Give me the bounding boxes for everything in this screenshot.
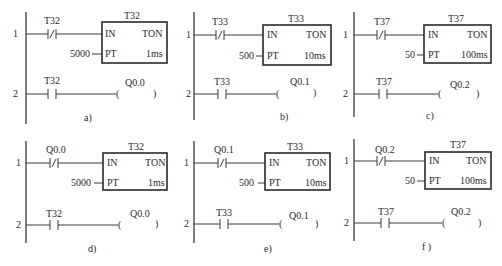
ladder-graphics bbox=[168, 2, 336, 135]
timer-in-pin: IN bbox=[269, 158, 280, 168]
coil-open-paren: ( bbox=[116, 89, 119, 99]
timer-in-pin: IN bbox=[105, 29, 116, 39]
timer-name: T37 bbox=[448, 14, 464, 24]
no-contact-label: T32 bbox=[46, 209, 62, 219]
rung-number-1: 1 bbox=[16, 158, 21, 168]
coil-label: Q0.0 bbox=[125, 78, 145, 88]
ladder-panel-a: 1 T32 T32 IN TON PT 1ms 5000 2 T32 Q0.0 … bbox=[0, 0, 168, 133]
coil-open-paren: ( bbox=[118, 220, 121, 230]
rung-number-1: 1 bbox=[186, 30, 191, 40]
coil-open-paren: ( bbox=[276, 89, 279, 99]
nc-contact-label: T32 bbox=[44, 16, 60, 26]
timer-resolution: 100ms bbox=[460, 176, 487, 186]
timer-name: T37 bbox=[450, 140, 466, 150]
timer-resolution: 100ms bbox=[461, 50, 488, 60]
timer-in-pin: IN bbox=[267, 30, 278, 40]
no-contact-label: T37 bbox=[376, 77, 392, 87]
timer-pt-value: 500 bbox=[239, 51, 254, 61]
ladder-panel-f: 1 Q0.2 T37 IN TON PT 100ms 50 2 T37 Q0.2… bbox=[334, 133, 502, 266]
coil-close-paren: ) bbox=[478, 218, 481, 228]
ladder-panel-e: 1 Q0.1 T33 IN TON PT 10ms 500 2 T33 Q0.1… bbox=[168, 133, 336, 266]
panel-caption: a) bbox=[84, 113, 92, 123]
ladder-graphics bbox=[168, 133, 336, 266]
coil-open-paren: ( bbox=[279, 219, 282, 229]
timer-type: TON bbox=[306, 158, 326, 168]
panel-caption: f ) bbox=[422, 242, 431, 252]
timer-pt-pin: PT bbox=[105, 49, 117, 59]
ladder-graphics bbox=[334, 133, 502, 266]
timer-name: T32 bbox=[128, 142, 144, 152]
panel-caption: c) bbox=[426, 111, 434, 121]
rung-number-1: 1 bbox=[343, 30, 348, 40]
ladder-panel-d: 1 Q0.0 T32 IN TON PT 1ms 5000 2 T32 Q0.0… bbox=[0, 133, 168, 266]
timer-in-pin: IN bbox=[107, 158, 118, 168]
timer-name: T33 bbox=[287, 142, 303, 152]
timer-pt-value: 5000 bbox=[70, 49, 90, 59]
panel-caption: d) bbox=[88, 244, 96, 254]
timer-resolution: 10ms bbox=[304, 51, 326, 61]
coil-close-paren: ) bbox=[476, 89, 479, 99]
ladder-panel-c: 1 T37 T37 IN TON PT 100ms 50 2 T37 Q0.2 … bbox=[334, 2, 502, 135]
timer-pt-value: 500 bbox=[239, 178, 254, 188]
timer-type: TON bbox=[466, 156, 486, 166]
panel-caption: e) bbox=[264, 244, 272, 254]
timer-resolution: 10ms bbox=[305, 178, 327, 188]
coil-label: Q0.1 bbox=[289, 211, 309, 221]
timer-in-pin: IN bbox=[429, 156, 440, 166]
ladder-panel-b: 1 T33 T33 IN TON PT 10ms 500 2 T33 Q0.1 … bbox=[168, 2, 336, 135]
rung-number-2: 2 bbox=[16, 220, 21, 230]
timer-name: T32 bbox=[124, 11, 140, 21]
timer-pt-pin: PT bbox=[429, 176, 441, 186]
timer-pt-pin: PT bbox=[269, 178, 281, 188]
nc-contact-label: T37 bbox=[374, 17, 390, 27]
coil-label: Q0.2 bbox=[450, 80, 470, 90]
coil-label: Q0.2 bbox=[451, 207, 471, 217]
nc-contact-label: Q0.0 bbox=[46, 145, 66, 155]
coil-open-paren: ( bbox=[438, 89, 441, 99]
no-contact-label: T33 bbox=[214, 77, 230, 87]
coil-label: Q0.1 bbox=[290, 77, 310, 87]
no-contact-label: T37 bbox=[378, 207, 394, 217]
nc-contact-label: T33 bbox=[212, 17, 228, 27]
rung-number-2: 2 bbox=[343, 89, 348, 99]
rung-number-2: 2 bbox=[184, 219, 189, 229]
timer-resolution: 1ms bbox=[146, 49, 163, 59]
no-contact-label: T33 bbox=[216, 208, 232, 218]
panel-caption: b) bbox=[280, 112, 288, 122]
rung-number-1: 1 bbox=[344, 156, 349, 166]
no-contact-label: T32 bbox=[44, 76, 60, 86]
nc-contact-label: Q0.2 bbox=[375, 145, 395, 155]
timer-resolution: 1ms bbox=[148, 178, 165, 188]
rung-number-1: 1 bbox=[184, 158, 189, 168]
rung-number-1: 1 bbox=[13, 29, 18, 39]
timer-name: T33 bbox=[288, 14, 304, 24]
timer-pt-value: 50 bbox=[405, 50, 415, 60]
coil-close-paren: ) bbox=[315, 219, 318, 229]
rung-number-2: 2 bbox=[13, 89, 18, 99]
timer-type: TON bbox=[467, 30, 487, 40]
rung-number-2: 2 bbox=[344, 218, 349, 228]
coil-close-paren: ) bbox=[155, 219, 158, 229]
nc-contact-label: Q0.1 bbox=[214, 145, 234, 155]
timer-pt-value: 50 bbox=[405, 176, 415, 186]
coil-label: Q0.0 bbox=[130, 209, 150, 219]
rung-number-2: 2 bbox=[186, 89, 191, 99]
timer-in-pin: IN bbox=[428, 30, 439, 40]
coil-close-paren: ) bbox=[153, 89, 156, 99]
timer-type: TON bbox=[306, 30, 326, 40]
timer-pt-pin: PT bbox=[428, 50, 440, 60]
timer-type: TON bbox=[142, 29, 162, 39]
timer-pt-value: 5000 bbox=[71, 178, 91, 188]
coil-open-paren: ( bbox=[442, 218, 445, 228]
ladder-graphics bbox=[0, 133, 168, 266]
timer-pt-pin: PT bbox=[107, 178, 119, 188]
coil-close-paren: ) bbox=[313, 88, 316, 98]
timer-type: TON bbox=[145, 158, 165, 168]
timer-pt-pin: PT bbox=[267, 51, 279, 61]
ladder-graphics bbox=[334, 2, 502, 135]
